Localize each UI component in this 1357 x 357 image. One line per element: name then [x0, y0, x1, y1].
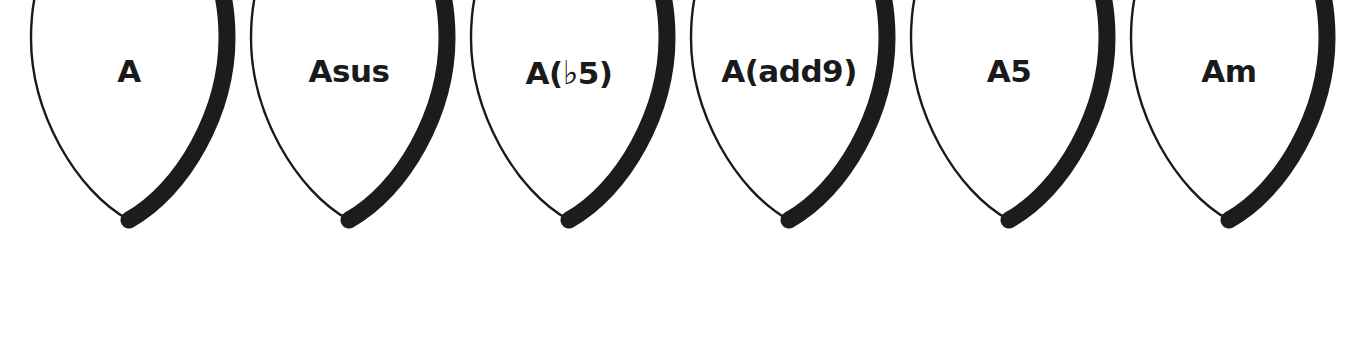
pick-shape-icon	[5, 0, 253, 222]
guitar-pick[interactable]: A	[5, 0, 253, 222]
pick-shape-icon	[885, 0, 1133, 222]
pick-shape-icon	[225, 0, 473, 222]
guitar-pick[interactable]: Am	[1105, 0, 1353, 222]
guitar-pick[interactable]: A5	[885, 0, 1133, 222]
guitar-pick[interactable]: Asus	[225, 0, 473, 222]
guitar-pick[interactable]: A(add9)	[665, 0, 913, 222]
blank-lower-margin	[0, 240, 1357, 357]
pick-shape-icon	[445, 0, 693, 222]
pick-shape-icon	[665, 0, 913, 222]
chord-pick-row-image: A Asus A(♭5)	[0, 0, 1357, 357]
guitar-pick[interactable]: A(♭5)	[445, 0, 693, 222]
pick-row: A Asus A(♭5)	[0, 0, 1357, 240]
pick-shape-icon	[1105, 0, 1353, 222]
